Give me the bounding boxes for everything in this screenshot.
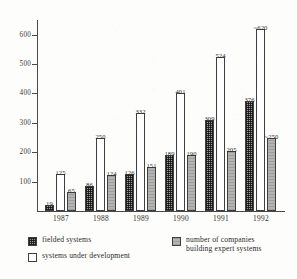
legend-swatch-number-of-companies [172, 237, 181, 246]
bar-value-label: 125 [55, 169, 65, 176]
bar-value-label: 309 [204, 115, 214, 122]
bar-group: 189401190 [165, 19, 196, 211]
bar-group: 126332151 [125, 19, 156, 211]
y-axis-tick [32, 35, 38, 36]
legend-column-left: fielded systems systems under developmen… [28, 236, 130, 268]
legend-swatch-systems-under-development [28, 253, 37, 262]
bar-value-label: ~250 [265, 133, 279, 140]
bar-companies: 190 [187, 155, 196, 211]
bar-companies: ~250 [267, 138, 276, 211]
bar-value-label: 126 [124, 169, 134, 176]
bar-fielded: 189 [165, 155, 174, 211]
bar-value-label: 401 [175, 88, 185, 95]
legend-label-fielded-systems: fielded systems [42, 236, 91, 245]
bar-value-label: 190 [186, 150, 196, 157]
y-axis-tick-label: 500 [9, 60, 31, 68]
bar-companies: 151 [147, 167, 156, 211]
bar-group: 1912565 [45, 19, 76, 211]
bar-value-label: 124 [106, 170, 116, 177]
bar-companies: 65 [67, 192, 76, 211]
y-axis-tick-label: 200 [9, 148, 31, 156]
bar-group: 376~620~250 [245, 19, 276, 211]
bar-companies: 124 [107, 175, 116, 211]
bar-value-label: 151 [146, 162, 156, 169]
y-axis-tick-label: 300 [9, 119, 31, 127]
legend-item-fielded-systems: fielded systems [28, 236, 130, 246]
legend-column-right: number of companies building expert syst… [172, 236, 262, 259]
bar-group: 86250124 [85, 19, 116, 211]
bar-value-label: 250 [95, 133, 105, 140]
chart-legend: fielded systems systems under developmen… [0, 236, 297, 279]
x-axis-label-1992: 1992 [238, 214, 284, 223]
bar-value-label: 524 [215, 52, 225, 59]
y-axis-tick [32, 64, 38, 65]
legend-label-systems-under-development: systems under development [42, 252, 130, 261]
y-axis-tick [32, 182, 38, 183]
bar-under-dev: 250 [96, 138, 105, 211]
y-axis-line [37, 20, 38, 212]
bar-companies: 205 [227, 151, 236, 211]
y-axis-tick-label: 400 [9, 89, 31, 97]
bar-value-label: 86 [86, 181, 93, 188]
bar-value-label: 332 [135, 108, 145, 115]
bar-chart: 100200300400500600 191256586250124126332… [0, 0, 297, 279]
bar-under-dev: 401 [176, 93, 185, 211]
bar-value-label: 205 [226, 146, 236, 153]
bar-fielded: 19 [45, 205, 54, 211]
bar-fielded: 309 [205, 120, 214, 211]
bar-fielded: 376 [245, 101, 254, 211]
legend-item-systems-under-development: systems under development [28, 252, 130, 262]
x-axis-line [37, 211, 285, 212]
y-axis-tick-label: 600 [9, 31, 31, 39]
bar-under-dev: 332 [136, 113, 145, 211]
y-axis-tick [32, 93, 38, 94]
y-axis-tick [32, 123, 38, 124]
legend-label-number-of-companies: number of companies building expert syst… [186, 236, 262, 253]
bar-value-label: 19 [46, 200, 53, 207]
y-axis-tick [32, 152, 38, 153]
bar-fielded: 86 [85, 186, 94, 211]
bar-under-dev: ~620 [256, 29, 265, 211]
bar-under-dev: 125 [56, 174, 65, 211]
bar-group: 309524205 [205, 19, 236, 211]
bar-value-label: 65 [68, 187, 75, 194]
bar-value-label: ~620 [254, 24, 268, 31]
bar-fielded: 126 [125, 174, 134, 211]
bar-value-label: 189 [164, 150, 174, 157]
legend-swatch-fielded-systems [28, 237, 37, 246]
legend-item-number-of-companies: number of companies building expert syst… [172, 236, 262, 253]
y-axis-tick-label: 100 [9, 178, 31, 186]
bar-under-dev: 524 [216, 57, 225, 211]
bar-value-label: 376 [244, 96, 254, 103]
